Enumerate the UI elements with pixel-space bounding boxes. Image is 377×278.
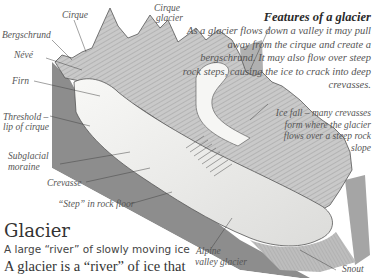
page-subtitle: A large “river” of slowly moving ice — [4, 243, 190, 255]
label-cirque: Cirque — [62, 10, 88, 20]
label-threshold-line1: Threshold – — [3, 112, 48, 122]
label-cirque-glacier-line2: glacier — [156, 13, 183, 23]
label-cirque-glacier-line1: Cirque — [154, 3, 180, 13]
label-crevasse: Crevasse — [47, 178, 81, 188]
body-text: A glacier is a “river” of ice that — [4, 258, 186, 275]
label-subglacial-line1: Subglacial — [8, 151, 49, 161]
label-firn: Firn — [12, 76, 29, 86]
label-threshold-line2: lip of cirque — [3, 122, 49, 132]
label-step-in-rock-floor: “Step” in rock floor — [58, 199, 134, 209]
label-subglacial-line2: moraine — [8, 162, 40, 172]
label-ice-fall: Ice fall – many crevasses form where the… — [271, 108, 371, 154]
label-snout: Snout — [342, 264, 364, 274]
label-neve: Névé — [14, 50, 33, 60]
label-alpine-line1: Alpine — [196, 246, 221, 256]
label-bergschrund: Bergschrund — [2, 30, 51, 40]
glacier-diagram: Cirque Cirque glacier Bergschrund Névé F… — [0, 0, 377, 278]
features-heading: Features of a glacier — [264, 10, 371, 25]
label-alpine-line2: valley glacier — [195, 257, 247, 267]
features-description: As a glacier flows down a valley it may … — [181, 24, 371, 92]
page-title: Glacier — [4, 220, 70, 241]
